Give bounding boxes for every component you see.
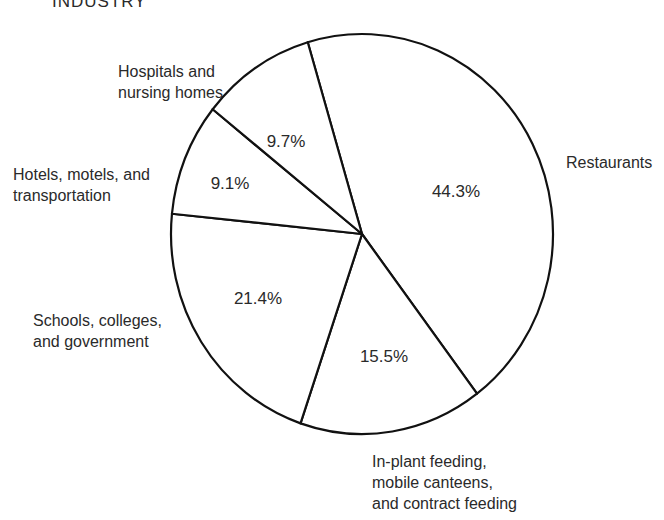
slice-value-label: 44.3% [432,182,480,201]
pie-slices [171,34,553,434]
slice-category-label: Restaurants [566,154,652,171]
slice-value-label: 9.7% [267,132,306,151]
slice-category-label: Schools, colleges,and government [33,312,162,350]
slice-category-label: In-plant feeding,mobile canteens,and con… [372,453,517,512]
chart-title: INDUSTRY [52,0,147,11]
slice-category-label: Hospitals andnursing homes [118,63,223,101]
slice-value-label: 9.1% [211,174,250,193]
slice-value-label: 15.5% [360,347,408,366]
pie-chart: INDUSTRY 44.3%15.5%21.4%9.1%9.7% Restaur… [0,0,664,520]
slice-value-label: 21.4% [234,289,282,308]
slice-category-label: Hotels, motels, andtransportation [13,166,150,204]
